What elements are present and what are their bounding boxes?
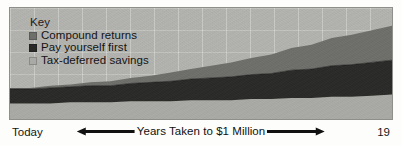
legend-item-compound-returns: Compound returns <box>29 30 149 42</box>
plot-area: Key Compound returns Pay yourself first … <box>9 7 393 120</box>
square-swatch-icon <box>29 32 37 40</box>
x-axis-label: Years Taken to $1 Million <box>135 125 267 137</box>
legend-item-pay-yourself-first: Pay yourself first <box>29 42 149 54</box>
square-swatch-icon <box>29 57 37 65</box>
square-swatch-icon <box>29 44 37 52</box>
x-axis-start-label: Today <box>12 126 43 138</box>
legend-item-label: Pay yourself first <box>41 42 127 54</box>
chart-figure: Key Compound returns Pay yourself first … <box>0 0 402 146</box>
legend-title: Key <box>30 17 149 29</box>
chart-legend: Key Compound returns Pay yourself first … <box>23 13 155 70</box>
x-axis-end-label: 19 <box>377 126 390 138</box>
legend-item-label: Compound returns <box>41 30 137 42</box>
legend-item-label: Tax-deferred savings <box>41 55 149 67</box>
arrow-right-icon <box>267 127 325 136</box>
arrow-left-icon <box>77 127 135 136</box>
legend-item-tax-deferred-savings: Tax-deferred savings <box>29 55 149 67</box>
x-axis-caption-row: Today Years Taken to $1 Million 19 <box>0 122 402 146</box>
x-axis-range-caption: Years Taken to $1 Million <box>77 125 325 137</box>
